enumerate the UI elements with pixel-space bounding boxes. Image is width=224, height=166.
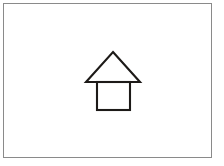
roof-triangle-icon xyxy=(86,52,140,82)
house-body-square-icon xyxy=(97,82,130,110)
house-drawing xyxy=(0,0,224,166)
